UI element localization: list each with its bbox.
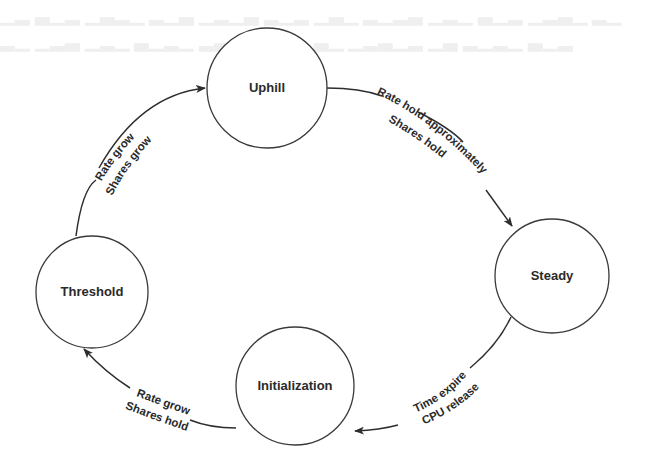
edge-line — [190, 420, 236, 428]
node-uphill: Uphill — [207, 28, 327, 148]
node-steady: Steady — [495, 219, 609, 333]
edge-line-arrow — [84, 349, 130, 388]
node-label-steady: Steady — [531, 268, 574, 283]
edge-line-arrow — [486, 190, 512, 226]
edge-threshold-to-uphill — [76, 88, 205, 236]
node-label-threshold: Threshold — [61, 284, 124, 299]
edge-line — [470, 317, 511, 368]
node-label-initialization: Initialization — [257, 378, 332, 393]
node-label-uphill: Uphill — [249, 80, 285, 95]
node-threshold: Threshold — [36, 236, 148, 348]
edge-line — [76, 180, 96, 236]
node-initialization: Initialization — [236, 327, 354, 445]
edge-line — [327, 88, 382, 96]
edge-label-uphill-steady-line1: Rate hold approximately — [376, 85, 491, 176]
edge-line-arrow — [355, 425, 398, 431]
state-diagram: Rate hold approximately Shares hold Time… — [0, 0, 645, 471]
